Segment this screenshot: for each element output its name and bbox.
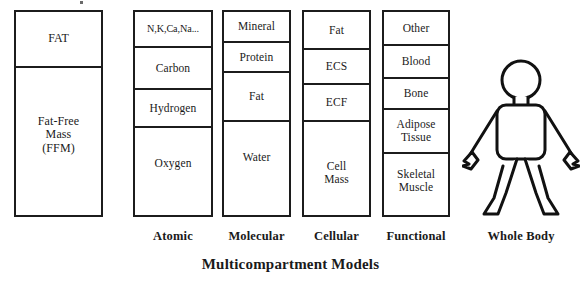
- multicompartment-models-figure: FAT Fat-Free Mass (FFM) N,K,Ca,Na... Car…: [0, 0, 581, 285]
- right-leg-shape: [525, 159, 558, 214]
- cell-mineral: Mineral: [224, 12, 289, 43]
- cell-skeletal-muscle: Skeletal Muscle: [384, 154, 448, 215]
- figure-title: Multicompartment Models: [0, 256, 581, 273]
- caption-functional: Functional: [377, 229, 455, 244]
- cell-nkcana: N,K,Ca,Na...: [135, 12, 211, 48]
- cell-oxygen: Oxygen: [135, 128, 211, 215]
- left-hand-shape: [463, 152, 478, 169]
- column-molecular: Mineral Protein Fat Water: [222, 10, 291, 217]
- cell-carbon: Carbon: [135, 48, 211, 90]
- cell-cell-mass: Cell Mass: [304, 122, 369, 215]
- caption-molecular: Molecular: [212, 229, 301, 244]
- cell-protein: Protein: [224, 43, 289, 73]
- column-functional: Other Blood Bone Adipose Tissue Skeletal…: [382, 10, 450, 217]
- left-leg-shape: [484, 159, 517, 214]
- caption-cellular: Cellular: [302, 229, 371, 244]
- cell-other: Other: [384, 12, 448, 46]
- whole-body-figure: [462, 48, 580, 220]
- column-two-compartment: FAT Fat-Free Mass (FFM): [14, 10, 103, 217]
- cell-fat-molecular: Fat: [224, 73, 289, 122]
- caption-atomic: Atomic: [133, 229, 213, 244]
- cell-fat: FAT: [16, 12, 101, 68]
- cell-fat-free-mass: Fat-Free Mass (FFM): [16, 68, 101, 215]
- column-atomic: N,K,Ca,Na... Carbon Hydrogen Oxygen: [133, 10, 213, 217]
- cell-fat-cellular: Fat: [304, 12, 369, 50]
- human-body-icon: [462, 48, 580, 220]
- cell-adipose-tissue: Adipose Tissue: [384, 110, 448, 154]
- cell-ecf: ECF: [304, 85, 369, 122]
- cell-water: Water: [224, 122, 289, 215]
- cell-ecs: ECS: [304, 50, 369, 85]
- torso-shape: [497, 105, 545, 159]
- caption-whole-body: Whole Body: [466, 229, 576, 244]
- cell-hydrogen: Hydrogen: [135, 90, 211, 128]
- cell-blood: Blood: [384, 46, 448, 79]
- cell-bone: Bone: [384, 79, 448, 110]
- head-shape: [502, 61, 540, 99]
- scan-artifact-mark: [80, 1, 83, 4]
- right-hand-shape: [564, 152, 579, 169]
- column-cellular: Fat ECS ECF Cell Mass: [302, 10, 371, 217]
